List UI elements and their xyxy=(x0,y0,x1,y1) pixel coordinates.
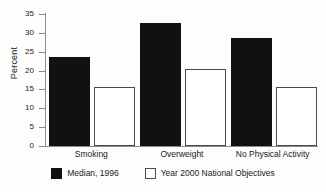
y-axis-tick-mark xyxy=(39,14,45,15)
y-axis-tick-label: 20 xyxy=(25,67,34,75)
bar-median xyxy=(140,23,181,146)
y-axis-tick-label: 25 xyxy=(25,48,34,56)
bar-median xyxy=(49,57,90,146)
y-axis-tick-label: 15 xyxy=(25,85,34,93)
y-axis-tick-mark xyxy=(39,127,45,128)
legend-label: Median, 1996 xyxy=(67,169,119,178)
chart-legend: Median, 1996Year 2000 National Objective… xyxy=(0,168,326,179)
x-axis-label-smoking: Smoking xyxy=(46,150,137,159)
y-axis-tick-label: 30 xyxy=(25,29,34,37)
bar-chart-figure: Percent 35302520151050 SmokingOverweight… xyxy=(0,0,326,192)
open-square-icon xyxy=(145,168,156,179)
y-axis-tick-mark xyxy=(39,52,45,53)
y-axis-tick-mark xyxy=(39,146,45,147)
bar-objective xyxy=(276,87,317,146)
y-axis-tick-label: 10 xyxy=(25,104,34,112)
bar-objective xyxy=(94,87,135,146)
bar-objective xyxy=(185,69,226,146)
y-axis-title: Percent xyxy=(9,28,19,98)
x-axis-line xyxy=(45,146,318,147)
y-axis-tick-label: 5 xyxy=(30,123,34,131)
y-axis-tick-mark xyxy=(39,89,45,90)
legend-item: Year 2000 National Objectives xyxy=(145,168,275,179)
y-axis-tick-label: 0 xyxy=(30,142,34,150)
filled-square-icon xyxy=(51,168,62,179)
legend-label: Year 2000 National Objectives xyxy=(161,169,275,178)
x-axis-label-no-physical-activity: No Physical Activity xyxy=(227,150,318,159)
bar-group xyxy=(231,14,315,146)
y-axis-tick-label: 35 xyxy=(25,10,34,18)
plot-area xyxy=(46,14,318,146)
x-axis-label-overweight: Overweight xyxy=(137,150,228,159)
y-axis-tick-mark xyxy=(39,71,45,72)
bar-median xyxy=(231,38,272,146)
y-axis-tick-mark xyxy=(39,33,45,34)
bar-group xyxy=(140,14,224,146)
y-axis-tick-mark xyxy=(39,108,45,109)
bar-group xyxy=(49,14,133,146)
legend-item: Median, 1996 xyxy=(51,168,119,179)
